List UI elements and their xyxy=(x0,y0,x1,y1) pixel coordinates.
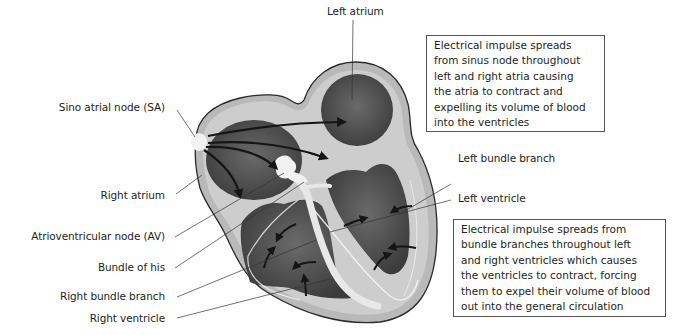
heart-conduction-diagram: Left atrium Sino atrial node (SA) Right … xyxy=(0,0,673,335)
callout-line: bundle branches throughout left xyxy=(461,237,659,252)
label-av-node: Atrioventricular node (AV) xyxy=(31,230,165,243)
label-right-ventricle: Right ventricle xyxy=(90,312,165,325)
label-left-bundle-branch: Left bundle branch xyxy=(458,152,555,165)
left-atrium-chamber xyxy=(321,74,393,146)
callout-line: the ventricles to contract, forcing xyxy=(461,268,659,283)
label-right-atrium: Right atrium xyxy=(101,189,165,202)
callout-line: and right ventricles which causes xyxy=(461,253,659,268)
callout-line: Electrical impulse spreads xyxy=(434,38,598,53)
callout-line: them to expel their volume of blood xyxy=(461,284,659,299)
callout-line: left and right atria causing xyxy=(434,69,598,84)
label-right-bundle-branch: Right bundle branch xyxy=(60,290,165,303)
label-left-atrium: Left atrium xyxy=(327,5,384,18)
callout-line: from sinus node throughout xyxy=(434,53,598,68)
callout-line: expelling its volume of blood xyxy=(434,100,598,115)
callout-line: Electrical impulse spreads from xyxy=(461,222,659,237)
sa-node xyxy=(191,133,207,151)
label-bundle-of-his: Bundle of his xyxy=(98,261,165,274)
callout-atrial-contraction: Electrical impulse spreads from sinus no… xyxy=(426,35,605,132)
callout-line: out into the general circulation xyxy=(461,299,659,314)
callout-line: the atria to contract and xyxy=(434,84,598,99)
label-left-ventricle: Left ventricle xyxy=(458,192,526,205)
label-sa-node: Sino atrial node (SA) xyxy=(59,101,165,114)
callout-ventricular-contraction: Electrical impulse spreads from bundle b… xyxy=(453,219,666,317)
callout-line: into the ventricles xyxy=(434,115,598,130)
